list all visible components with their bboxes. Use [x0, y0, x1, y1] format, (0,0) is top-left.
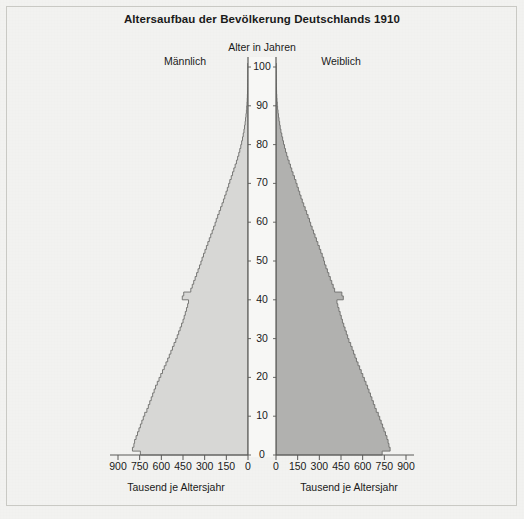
y-tick-label: 40: [247, 293, 277, 305]
y-tick-label: 100: [247, 60, 277, 72]
y-tick-label: 10: [247, 409, 277, 421]
x-axis-label-male: Tausend je Altersjahr: [110, 481, 242, 493]
y-tick-label: 0: [247, 448, 277, 460]
y-tick-label: 70: [247, 176, 277, 188]
y-tick-label: 60: [247, 215, 277, 227]
x-axis-label-female: Tausend je Altersjahr: [283, 481, 415, 493]
y-tick-label: 20: [247, 370, 277, 382]
y-tick-label: 90: [247, 99, 277, 111]
female-pyramid-path: [276, 63, 390, 455]
female-pyramid-area: [276, 63, 390, 455]
x-tick-label-female: 900: [391, 460, 421, 472]
y-tick-label: 50: [247, 254, 277, 266]
male-pyramid-area: [132, 63, 248, 455]
x-tick-label-male: 900: [103, 460, 133, 472]
y-tick-label: 30: [247, 332, 277, 344]
y-tick-label: 80: [247, 138, 277, 150]
male-pyramid-path: [132, 63, 248, 455]
chart-figure: Altersaufbau der Bevölkerung Deutschland…: [0, 0, 524, 519]
